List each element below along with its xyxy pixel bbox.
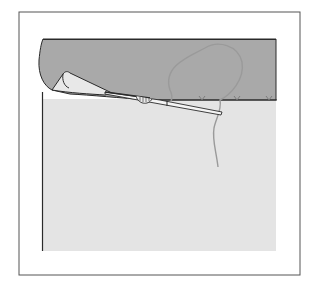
hemming-diagram [0, 0, 313, 285]
garment-fabric [42, 99, 276, 251]
